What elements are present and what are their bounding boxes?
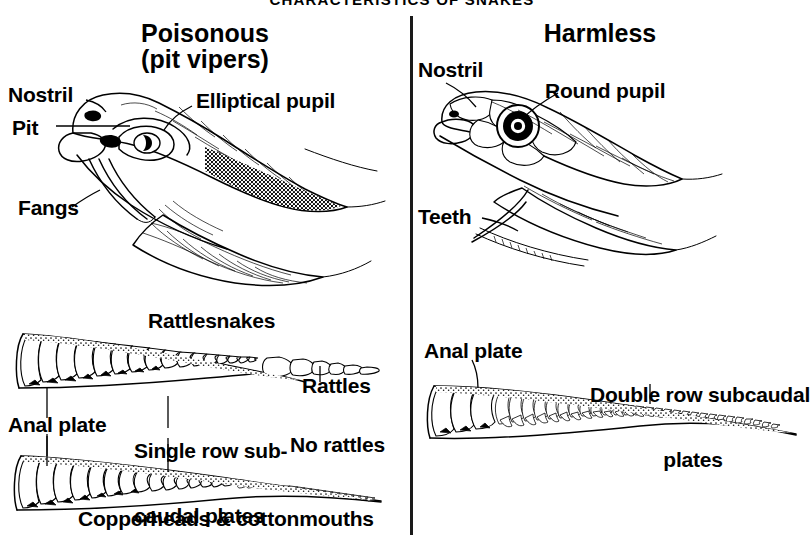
column-heading-poisonous-line1: Poisonous bbox=[80, 20, 330, 46]
column-heading-poisonous: Poisonous (pit vipers) bbox=[80, 20, 330, 73]
label-double-row-line2: plates bbox=[590, 449, 796, 471]
label-rattlesnakes: Rattlesnakes bbox=[148, 310, 275, 332]
figure-title: CHARACTERISTICS OF SNAKES bbox=[0, 0, 804, 8]
pit-viper-leader-lines bbox=[0, 80, 400, 310]
label-copperheads-cottonmouths: Copperheads & cottonmouths bbox=[78, 508, 374, 530]
harmless-tail-leader-lines bbox=[420, 358, 804, 428]
column-heading-poisonous-line2: (pit vipers) bbox=[80, 46, 330, 72]
column-heading-harmless: Harmless bbox=[475, 20, 725, 46]
column-heading-harmless-line1: Harmless bbox=[475, 20, 725, 46]
harmless-leader-lines bbox=[410, 55, 804, 255]
copperhead-tail-leader-lines bbox=[0, 434, 400, 494]
